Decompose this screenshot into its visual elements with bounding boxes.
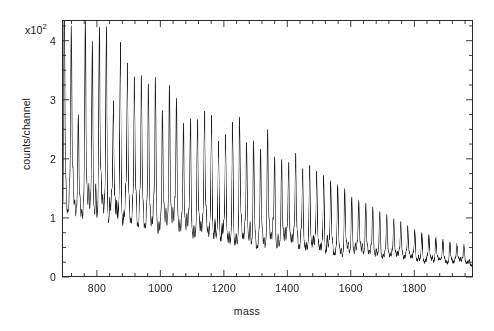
mass-spectrum-figure: x102 counts/channel 80010001200140016001… xyxy=(0,0,494,331)
plot-area xyxy=(62,20,473,277)
y-tick-label: 3 xyxy=(40,94,56,106)
y-axis-multiplier-exponent: 2 xyxy=(43,22,47,31)
y-axis-multiplier: x102 xyxy=(25,22,47,36)
x-tick-label: 1600 xyxy=(339,282,363,294)
y-tick-label: 1 xyxy=(40,212,56,224)
y-tick-label: 2 xyxy=(40,153,56,165)
y-tick-label: 0 xyxy=(40,271,56,283)
x-tick-label: 1800 xyxy=(402,282,426,294)
x-tick-label: 800 xyxy=(88,282,106,294)
y-axis-title: counts/channel xyxy=(20,98,32,170)
y-axis-title-container: counts/channel xyxy=(28,60,44,220)
spectrum-trace xyxy=(63,21,472,276)
x-tick-label: 1400 xyxy=(275,282,299,294)
x-tick-label: 1200 xyxy=(212,282,236,294)
x-axis-title: mass xyxy=(0,305,494,317)
x-tick-label: 1000 xyxy=(148,282,172,294)
y-tick-label: 4 xyxy=(40,35,56,47)
